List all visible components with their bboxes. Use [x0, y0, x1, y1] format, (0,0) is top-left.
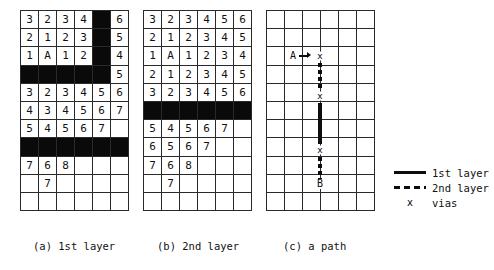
grid-cell: 2 [57, 29, 75, 47]
legend-item-second-layer: 2nd layer [392, 181, 489, 194]
grid-cell: 3 [21, 84, 39, 102]
grid-cell: 7 [93, 120, 111, 138]
grid-cell [303, 102, 321, 120]
grid-cell: 7 [21, 157, 39, 175]
grid-cell: 2 [144, 66, 162, 84]
solid-line-icon [392, 171, 428, 174]
grid-cell [357, 11, 375, 29]
grid-cell [321, 120, 339, 138]
blocked-cell [144, 102, 162, 120]
grid-cell: 5 [75, 102, 93, 120]
grid-cell: 4 [162, 120, 180, 138]
grid-cell: 5 [216, 11, 234, 29]
blocked-cell [93, 11, 111, 29]
grid-cell [234, 120, 252, 138]
grid-cell [285, 29, 303, 47]
grid-cell: 3 [144, 84, 162, 102]
grid-cell [267, 157, 285, 175]
grid-cell: 5 [111, 66, 129, 84]
grid-cell [39, 193, 57, 211]
grid-cell [285, 47, 303, 65]
grid-cell: 1 [162, 29, 180, 47]
caption-path: (c) a path [283, 240, 346, 252]
grid-cell [267, 175, 285, 193]
grid-cell: 4 [21, 102, 39, 120]
grid-cell [303, 29, 321, 47]
grid-cell: 1 [21, 47, 39, 65]
grid-cell [267, 120, 285, 138]
grid-cell: 6 [234, 11, 252, 29]
grid-cell: 6 [234, 84, 252, 102]
blocked-cell [111, 138, 129, 156]
grid-cell: 1 [180, 47, 198, 65]
grid-cell [357, 66, 375, 84]
grid-cell: 2 [75, 47, 93, 65]
grid-cell [321, 138, 339, 156]
grid-cell [162, 193, 180, 211]
grid-cell [339, 138, 357, 156]
grid-cell: 4 [75, 84, 93, 102]
grid-cell: 1 [144, 47, 162, 65]
grid-cell [339, 102, 357, 120]
grid-cell [303, 157, 321, 175]
grid-cell [267, 138, 285, 156]
grid-cell: 4 [216, 29, 234, 47]
grid-cell: 6 [39, 157, 57, 175]
grid-cell: 2 [144, 29, 162, 47]
grid-cell [303, 47, 321, 65]
grid-cell [321, 175, 339, 193]
grid-cell: 6 [144, 138, 162, 156]
blocked-cell [93, 29, 111, 47]
grid-cell [357, 102, 375, 120]
grid-cell: 3 [21, 11, 39, 29]
grid-cell [180, 175, 198, 193]
grid-cell: 7 [144, 157, 162, 175]
grid-cell [267, 193, 285, 211]
grid-cell [285, 102, 303, 120]
blocked-cell [93, 66, 111, 84]
grid-cell [285, 66, 303, 84]
grid-cell: 2 [180, 29, 198, 47]
grid-cell [267, 66, 285, 84]
grid-cell [339, 157, 357, 175]
grid-cell: 5 [144, 120, 162, 138]
grid-cell [321, 29, 339, 47]
grid-cell [144, 193, 162, 211]
grid-cell [285, 193, 303, 211]
grid-path [266, 10, 375, 211]
grid-cell: 6 [75, 120, 93, 138]
grid-cell: 4 [39, 120, 57, 138]
grid-cell: 3 [39, 102, 57, 120]
grid-cell [267, 102, 285, 120]
grid-cell [234, 157, 252, 175]
blocked-cell [93, 47, 111, 65]
grid-cell: 5 [57, 120, 75, 138]
grid-cell [321, 84, 339, 102]
grid-cell [303, 138, 321, 156]
grid-cell [339, 66, 357, 84]
grid-cell [111, 193, 129, 211]
blocked-cell [216, 102, 234, 120]
grid-cell [285, 120, 303, 138]
grid-cell: 3 [57, 84, 75, 102]
grid-cell [216, 157, 234, 175]
grid-cell: 6 [180, 138, 198, 156]
via-x-icon: x [392, 198, 428, 208]
blocked-cell [93, 138, 111, 156]
grid-cell [339, 120, 357, 138]
grid-cell [216, 175, 234, 193]
grid-cell: 6 [162, 157, 180, 175]
grid-cell [285, 11, 303, 29]
blocked-cell [21, 138, 39, 156]
figure-root: 32346212351A1245323456434567545677687 32… [0, 0, 494, 270]
grid-cell: 3 [216, 47, 234, 65]
blocked-cell [180, 102, 198, 120]
grid-cell: 4 [234, 47, 252, 65]
grid-cell: 2 [39, 84, 57, 102]
legend: 1st layer 2nd layer x vias [392, 166, 489, 211]
grid-cell: 5 [180, 120, 198, 138]
grid-cell [303, 193, 321, 211]
grid-cell [111, 175, 129, 193]
grid-cell: 4 [198, 11, 216, 29]
grid-cell: A [162, 47, 180, 65]
